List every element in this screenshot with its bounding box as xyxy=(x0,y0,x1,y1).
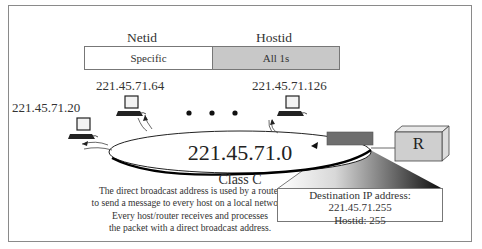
destination-hostid: Hostid: 255 xyxy=(278,215,442,227)
computer-icon-host-126 xyxy=(277,96,307,116)
ellipsis-dot xyxy=(209,110,214,115)
description-line: Every host/router receives and processes xyxy=(68,210,312,222)
computer-icon-host-64 xyxy=(116,96,146,116)
router-label: R xyxy=(395,134,442,154)
destination-address: 221.45.71.255 xyxy=(278,202,442,214)
destination-title: Destination IP address: xyxy=(278,190,442,202)
host-ip-label: 221.45.71.126 xyxy=(252,78,327,94)
description-line: the packet with a direct broadcast addre… xyxy=(68,222,312,234)
description-line: The direct broadcast address is used by … xyxy=(68,185,312,197)
network-address: 221.45.71.0 xyxy=(160,140,320,166)
packet-icon xyxy=(327,132,373,145)
ellipsis-dot xyxy=(186,110,191,115)
computer-icon-host-20 xyxy=(68,118,98,139)
destination-box: Destination IP address: 221.45.71.255 Ho… xyxy=(277,188,443,222)
host-ip-label: 221.45.71.64 xyxy=(96,78,164,94)
host-ip-label: 221.45.71.20 xyxy=(12,100,80,116)
description-line: to send a message to every host on a loc… xyxy=(68,197,312,209)
ellipsis-dot xyxy=(232,110,237,115)
description-text: The direct broadcast address is used by … xyxy=(68,185,312,235)
